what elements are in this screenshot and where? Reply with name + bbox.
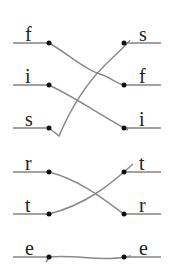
right-label: f	[139, 66, 146, 86]
right-label: t	[139, 153, 145, 173]
right-label: r	[139, 195, 146, 215]
left-label: s	[25, 109, 33, 129]
left-label: i	[25, 66, 31, 86]
left-label: t	[25, 195, 31, 215]
left-label: r	[25, 153, 32, 173]
right-label: e	[139, 238, 148, 258]
left-label: e	[25, 238, 34, 258]
left-label: f	[25, 24, 32, 44]
right-label: s	[139, 24, 147, 44]
right-label: i	[139, 109, 145, 129]
